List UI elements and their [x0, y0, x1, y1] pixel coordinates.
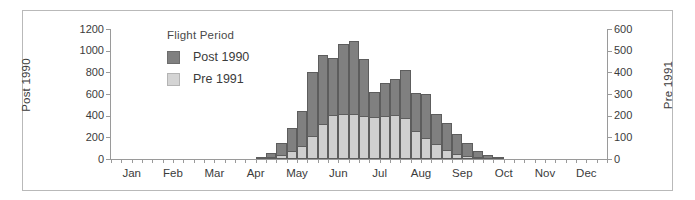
x-axis-tick-mark [504, 159, 505, 163]
x-axis-tick-mark [276, 159, 277, 163]
x-axis-tick-mark [442, 159, 443, 163]
x-axis-tick-mark [514, 159, 515, 163]
chart-figure: Post 1990 Pre 1991 020040060080010001200… [22, 10, 673, 191]
legend-label-pre-1991: Pre 1991 [193, 72, 244, 86]
bar-pre-1991 [359, 116, 369, 159]
x-axis-tick-mark [421, 159, 422, 163]
y-axis-right-tick-mark [608, 94, 612, 95]
y-axis-right-tick-label: 400 [614, 67, 632, 78]
y-axis-right-tick-label: 200 [614, 110, 632, 121]
bar-pre-1991 [266, 157, 276, 159]
x-axis-month-label: Oct [495, 167, 513, 179]
x-axis-tick-mark [307, 159, 308, 163]
bar-post-1990 [483, 155, 493, 159]
x-axis-tick-mark [142, 159, 143, 163]
y-axis-left-tick-mark [106, 94, 110, 95]
x-axis-month-label: Dec [576, 167, 596, 179]
x-axis-tick-mark [256, 159, 257, 163]
y-axis-left-tick-label: 400 [86, 110, 104, 121]
bar-pre-1991 [307, 136, 317, 159]
x-axis-tick-mark [214, 159, 215, 163]
y-axis-left-tick-mark [106, 29, 110, 30]
y-axis-left-tick-label: 800 [86, 67, 104, 78]
y-axis-right-tick-mark [608, 159, 612, 160]
x-axis-tick-mark [483, 159, 484, 163]
bar-pre-1991 [390, 115, 400, 159]
x-axis-tick-mark [524, 159, 525, 163]
x-axis-tick-mark [380, 159, 381, 163]
y-axis-left-tick-label: 600 [86, 89, 104, 100]
x-axis-tick-mark [390, 159, 391, 163]
bar-pre-1991 [369, 117, 379, 159]
x-axis-month-label: Aug [411, 167, 431, 179]
bar-pre-1991 [421, 138, 431, 159]
x-axis-tick-mark [266, 159, 267, 163]
legend-swatch-pre-1991-icon [167, 73, 180, 86]
x-axis-tick-mark [297, 159, 298, 163]
y-axis-right-tick-mark [608, 51, 612, 52]
y-axis-right-tick-mark [608, 137, 612, 138]
y-axis-right-tick-mark [608, 72, 612, 73]
x-axis-tick-mark [566, 159, 567, 163]
legend-swatch-post-1990-icon [167, 51, 180, 64]
x-axis-tick-mark [173, 159, 174, 163]
x-axis-tick-mark [493, 159, 494, 163]
bar-pre-1991 [287, 151, 297, 159]
x-axis-tick-mark [359, 159, 360, 163]
legend-item-post-1990[interactable]: Post 1990 [167, 50, 297, 64]
x-axis-tick-mark [338, 159, 339, 163]
bar-pre-1991 [431, 144, 441, 159]
y-axis-left-title: Post 1990 [20, 58, 32, 112]
x-axis-tick-mark [473, 159, 474, 163]
bar-pre-1991 [452, 154, 462, 159]
bar-pre-1991 [400, 118, 410, 159]
y-axis-left-tick-label: 0 [98, 154, 104, 165]
x-axis-tick-mark [132, 159, 133, 163]
x-axis-tick-mark [194, 159, 195, 163]
x-axis-tick-mark [452, 159, 453, 163]
x-axis-tick-mark [555, 159, 556, 163]
y-axis-left-tick-mark [106, 51, 110, 52]
x-axis-month-label: Apr [247, 167, 265, 179]
y-axis-right-tick-label: 100 [614, 132, 632, 143]
y-axis-left-tick-mark [106, 159, 110, 160]
x-axis-tick-mark [235, 159, 236, 163]
x-axis-tick-mark [535, 159, 536, 163]
x-axis-month-label: May [286, 167, 308, 179]
x-axis-tick-mark [400, 159, 401, 163]
x-axis-month-label: Jun [329, 167, 348, 179]
y-axis-left-tick-label: 1000 [80, 45, 104, 56]
x-axis-tick-mark [111, 159, 112, 163]
y-axis-left-tick-mark [106, 116, 110, 117]
x-axis-tick-mark [204, 159, 205, 163]
y-axis-right-title: Pre 1991 [662, 61, 674, 109]
x-axis-month-label: Nov [535, 167, 555, 179]
x-axis-month-label: Feb [163, 167, 183, 179]
x-axis-tick-mark [411, 159, 412, 163]
bar-post-1990 [256, 157, 266, 159]
x-axis-tick-mark [607, 159, 608, 163]
legend-item-pre-1991[interactable]: Pre 1991 [167, 72, 297, 86]
legend-label-post-1990: Post 1990 [193, 50, 249, 64]
x-axis-tick-mark [318, 159, 319, 163]
y-axis-left-tick-label: 200 [86, 132, 104, 143]
chart-legend: Flight Period Post 1990 Pre 1991 [167, 29, 297, 94]
x-axis-tick-mark [287, 159, 288, 163]
y-axis-right-tick-label: 500 [614, 45, 632, 56]
y-axis-right-tick-mark [608, 29, 612, 30]
x-axis-month-label: Sep [452, 167, 472, 179]
x-axis-tick-mark [369, 159, 370, 163]
x-axis-tick-mark [183, 159, 184, 163]
y-axis-right-tick-label: 0 [614, 154, 620, 165]
x-axis-tick-mark [545, 159, 546, 163]
x-axis-tick-mark [152, 159, 153, 163]
x-axis-tick-mark [431, 159, 432, 163]
bar-post-1990 [493, 157, 503, 159]
legend-title: Flight Period [167, 29, 297, 41]
x-axis-tick-mark [163, 159, 164, 163]
x-axis-tick-mark [245, 159, 246, 163]
bar-pre-1991 [318, 124, 328, 159]
bar-pre-1991 [276, 155, 286, 159]
y-axis-left-tick-mark [106, 72, 110, 73]
bar-pre-1991 [328, 115, 338, 159]
